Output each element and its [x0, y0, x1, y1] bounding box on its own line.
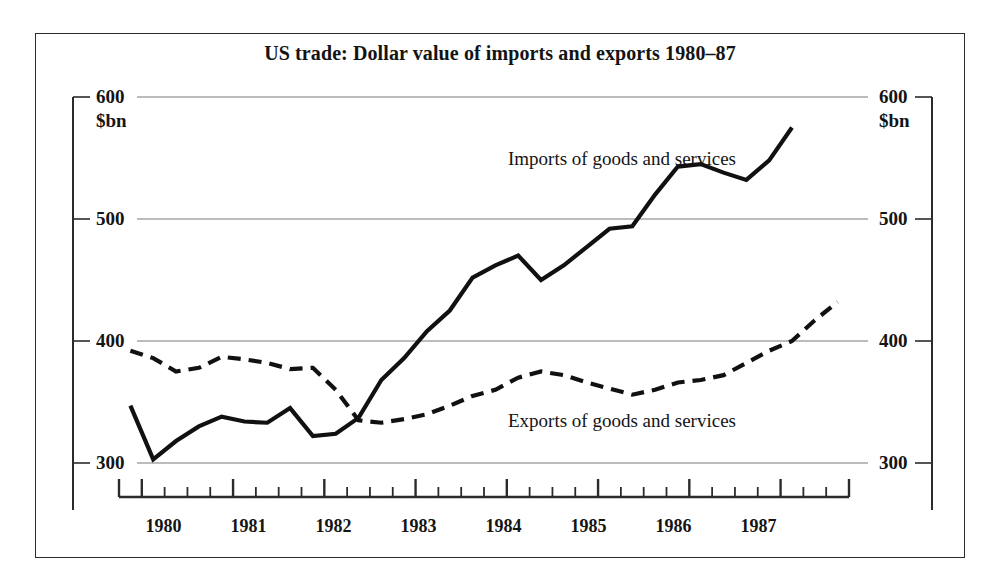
x-axis — [119, 479, 849, 497]
chart-figure: US trade: Dollar value of imports and ex… — [0, 0, 1000, 588]
series-line-exports — [130, 302, 837, 423]
plot-area — [0, 0, 1000, 588]
axis-spines — [73, 97, 932, 510]
data-series — [130, 128, 837, 460]
series-line-imports — [130, 128, 792, 460]
gridlines — [73, 97, 932, 463]
